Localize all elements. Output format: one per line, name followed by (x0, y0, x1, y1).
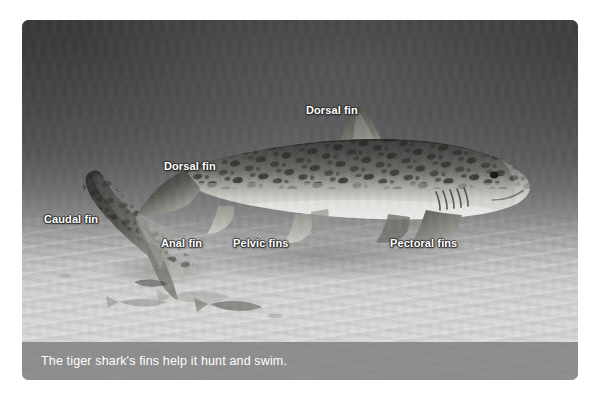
label-dorsal-fin-second: Dorsal fin (164, 160, 216, 173)
background-fish-6 (59, 274, 71, 278)
shark-eye (490, 172, 498, 179)
label-caudal-fin: Caudal fin (44, 213, 98, 226)
anal-fin (207, 206, 234, 234)
background-fish-1-tail (106, 296, 118, 308)
label-pelvic-fins: Pelvic fins (233, 237, 289, 250)
caption-text: The tiger shark's fins help it hunt and … (41, 354, 287, 368)
caption-bar: The tiger shark's fins help it hunt and … (22, 342, 578, 380)
shark-illustration (22, 20, 578, 380)
label-dorsal-fin-first: Dorsal fin (306, 104, 358, 117)
label-anal-fin: Anal fin (161, 237, 202, 250)
background-fish-5 (268, 314, 282, 318)
background-fish-3 (210, 301, 262, 311)
shark-photo-card: Dorsal fin Dorsal fin Caudal fin Anal fi… (22, 20, 578, 380)
label-pectoral-fins: Pectoral fins (390, 237, 457, 250)
